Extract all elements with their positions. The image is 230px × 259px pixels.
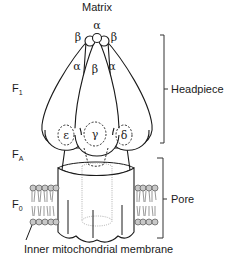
beta-center-label: β: [92, 63, 98, 76]
fa-label: FA: [12, 148, 24, 162]
top-beta-left-label: β: [75, 31, 81, 44]
headpiece-bracket: [160, 35, 164, 143]
top-alpha-label: α: [93, 19, 101, 32]
headpiece-label: Headpiece: [171, 83, 224, 95]
epsilon-label: ε: [63, 129, 69, 142]
matrix-label: Matrix: [82, 1, 112, 13]
alpha-left-label: α: [73, 60, 81, 73]
membrane-pointer: [26, 225, 32, 240]
f1-label: F1: [12, 82, 23, 96]
alpha-right-label: α: [108, 60, 116, 73]
f0-label: F0: [12, 198, 23, 212]
delta-label: δ: [121, 129, 128, 142]
top-alpha-lobe: [93, 34, 102, 43]
pore-label: Pore: [171, 193, 194, 205]
membrane-left: [30, 185, 59, 225]
pore-bracket: [157, 158, 163, 238]
inner-membrane-label: Inner mitochondrial membrane: [24, 243, 173, 255]
membrane-right: [135, 185, 158, 225]
top-beta-right-label: β: [111, 31, 117, 44]
pore-body: [58, 168, 134, 242]
gamma-label: γ: [92, 128, 99, 141]
atp-synthase-diagram: Matrix α β β α β α ε γ δ: [0, 0, 230, 259]
